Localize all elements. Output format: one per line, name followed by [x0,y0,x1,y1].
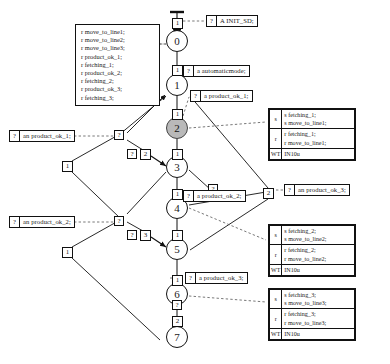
annotation-text: a product_ok_1; [201,91,252,101]
annotation-text: a product_ok_3; [196,273,247,283]
transition-box-left-5[interactable]: 3 [140,230,151,241]
question-mark-icon: ? [130,151,133,158]
transition-label: 2 [176,318,180,325]
state-node-label: 0 [174,36,180,47]
table-row: s s fetching_1; s move_to_line1; [270,110,355,129]
annotation-automaticmode[interactable]: ? a automaticmode; [183,65,250,77]
annotation-product-ok-3-right[interactable]: ? an product_ok_3; [284,184,350,196]
transition-box-2-3[interactable]: 1 [172,149,183,160]
state-node-7[interactable]: 7 [166,326,188,348]
transition-box-0-1[interactable]: 1 [172,65,183,76]
transition-label: 1 [176,232,180,239]
state-node-label: 3 [174,162,180,173]
table-row: r r fetching_1; r move_to_line1; [270,129,355,148]
question-mark-icon: ? [191,91,201,101]
state-node-label: 2 [174,123,180,134]
row-key: r [270,245,282,264]
annotation-text: A INIT_SD; [217,16,257,26]
transition-label: 1 [176,151,180,158]
state-node-label: 4 [174,203,180,214]
row-value: r fetching_2; r move_to_line2; [282,245,355,264]
code-text: r move_to_line1; r move_to_line2; r move… [81,28,125,101]
receive-code-block: r move_to_line1; r move_to_line2; r move… [75,24,160,106]
table-row: s s fetching_3; s move_to_line3; [270,290,355,309]
question-marker-a[interactable]: ? [114,130,124,140]
row-key: s [270,290,282,309]
question-marker-b[interactable]: ? [114,216,124,226]
row-key: s [270,226,282,245]
row-value: r fetching_1; r move_to_line1; [282,129,355,148]
diagram-canvas: 0 1 2 3 4 5 6 7 1 1 1 1 2 1 1 3 1 2 1 1 … [0,0,390,364]
transition-box-left-3[interactable]: 2 [140,149,151,160]
row-value: IN10u [282,148,355,159]
transition-label: 1 [176,20,180,27]
transition-box-1-2[interactable]: 1 [172,109,183,120]
row-value: s fetching_3; s move_to_line3; [282,290,355,309]
question-mark-icon: ? [184,66,194,76]
transition-label: 2 [144,151,148,158]
state-node-2[interactable]: 2 [166,117,188,139]
annotation-text: a automaticmode; [194,66,249,76]
table-row: r r fetching_2; r move_to_line2; [270,245,355,264]
row-value: r fetching_3; r move_to_line3; [282,309,355,328]
question-marker-c[interactable]: ? [127,149,137,159]
question-mark-icon: ? [117,132,120,139]
message-table-line3: s s fetching_3; s move_to_line3; r r fet… [268,288,356,341]
transition-box-4-5[interactable]: 1 [172,230,183,241]
table-row: r r fetching_3; r move_to_line3; [270,309,355,328]
annotation-text: a product_ok_2; [194,191,245,201]
annotation-text: an product_ok_1; [20,131,74,141]
question-mark-icon: ? [117,218,120,225]
state-node-label: 7 [174,332,180,343]
question-mark-icon: ? [10,131,20,141]
transition-box-3-4[interactable]: 1 [172,189,183,200]
transition-label: 1 [66,249,70,256]
transition-label: 1 [176,277,180,284]
transition-box-right-2[interactable]: 2 [263,188,274,199]
state-node-1[interactable]: 1 [166,74,188,96]
state-node-0[interactable]: 0 [166,30,188,52]
row-value: IN10u [282,264,355,275]
annotation-product-ok-3-bottom[interactable]: ? a product_ok_3; [185,272,248,284]
question-marker-d[interactable]: ? [127,230,137,240]
row-key: WT [270,328,282,339]
table-row: WT IN10u [270,148,355,159]
row-value: IN10u [282,328,355,339]
table-row: WT IN10u [270,328,355,339]
transition-box-6-7[interactable]: 2 [172,316,183,327]
state-node-5[interactable]: 5 [166,238,188,260]
annotation-init-sd[interactable]: ? A INIT_SD; [206,15,258,27]
annotation-product-ok-1-left[interactable]: ? an product_ok_1; [9,130,75,142]
table-row: WT IN10u [270,264,355,275]
row-key: WT [270,264,282,275]
transition-box-left-1[interactable]: 1 [62,161,73,172]
row-key: s [270,110,282,129]
transition-box-5-6[interactable]: 1 [172,275,183,286]
row-key: r [270,129,282,148]
row-key: WT [270,148,282,159]
annotation-product-ok-2-left[interactable]: ? an product_ok_2; [9,216,75,228]
transition-label: 3 [144,232,148,239]
question-mark-icon: ? [186,273,196,283]
question-mark-icon: ? [184,191,194,201]
transition-label: 1 [66,163,70,170]
transition-label: 1 [176,111,180,118]
annotation-product-ok-1-right[interactable]: ? a product_ok_1; [190,90,253,102]
transition-box-left-2[interactable]: 1 [62,247,73,258]
message-table-line2: s s fetching_2; s move_to_line2; r r fet… [268,224,356,277]
row-value: s fetching_2; s move_to_line2; [282,226,355,245]
question-mark-icon: ? [175,302,178,309]
question-mark-icon: ? [130,232,133,239]
row-value: s fetching_1; s move_to_line1; [282,110,355,129]
question-mark-icon: ? [207,16,217,26]
message-table-line1: s s fetching_1; s move_to_line1; r r fet… [268,108,356,161]
transition-box-top[interactable]: 1 [172,18,183,29]
row-key: r [270,309,282,328]
transition-label: 1 [176,191,180,198]
question-marker-f[interactable]: ? [172,300,182,310]
annotation-text: an product_ok_3; [295,185,349,195]
annotation-text: an product_ok_2; [20,217,74,227]
question-mark-icon: ? [285,185,295,195]
annotation-product-ok-2-right[interactable]: ? a product_ok_2; [183,190,246,202]
state-node-label: 5 [174,244,180,255]
